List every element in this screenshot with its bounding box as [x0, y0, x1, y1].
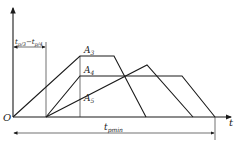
x-axis-label: t [229, 117, 234, 128]
label-a5: A5 [83, 93, 95, 104]
origin-label: O [3, 112, 11, 123]
curve-a4 [46, 76, 215, 117]
offset-dimension-label: tp/3−tp/4 [15, 38, 43, 48]
label-a3: A3 [83, 45, 95, 56]
trapezoid-timing-diagram: tp/3−tp/4 A3 A4 A5 O t tpmin [0, 0, 240, 150]
total-dimension-label: tpmin [104, 122, 123, 134]
curve-a3 [13, 56, 146, 117]
label-a4: A4 [83, 65, 95, 76]
